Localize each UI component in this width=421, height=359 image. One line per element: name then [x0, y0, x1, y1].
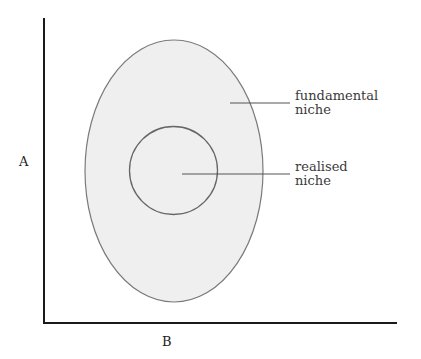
- fundamental-niche-ellipse: [85, 40, 263, 302]
- niche-diagram: [0, 0, 421, 359]
- realised-niche-label-line2: niche: [295, 174, 331, 187]
- fundamental-niche-label-line1: fundamental: [295, 89, 378, 102]
- x-axis-label: B: [162, 335, 172, 348]
- y-axis-label: A: [19, 155, 28, 168]
- realised-niche-label-line1: realised: [295, 160, 348, 173]
- fundamental-niche-label-line2: niche: [295, 103, 331, 116]
